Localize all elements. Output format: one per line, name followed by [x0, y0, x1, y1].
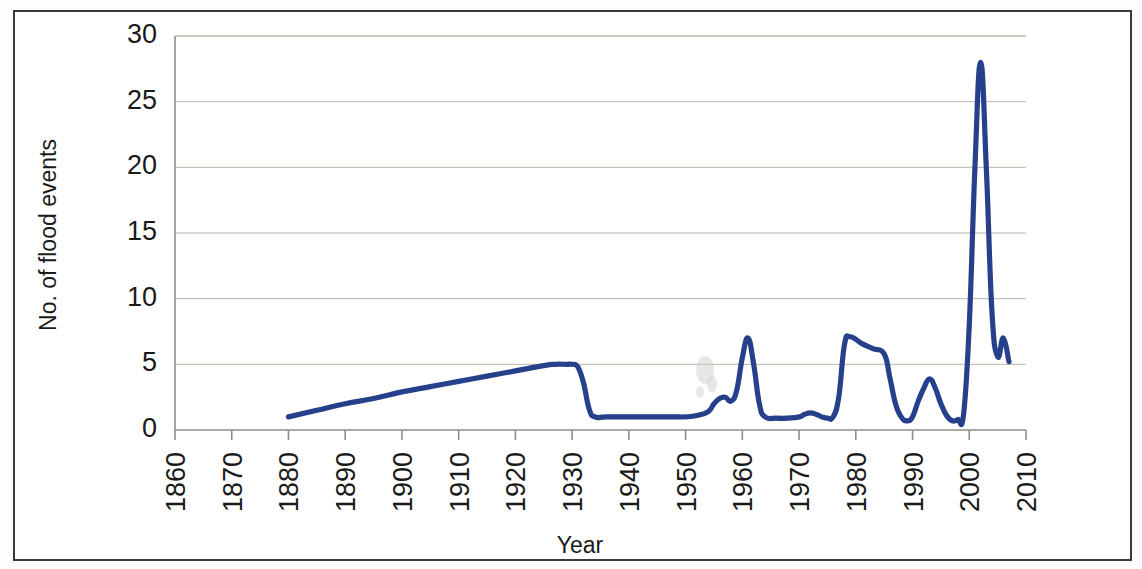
gridlines-group: [175, 36, 1026, 364]
x-tick-label: 1890: [331, 452, 361, 512]
y-tick-label: 30: [127, 19, 157, 49]
x-tick-labels-group: 1860187018801890190019101920193019401950…: [161, 452, 1042, 512]
y-tick-labels-group: 051015202530: [127, 19, 157, 443]
x-tick-label: 1900: [388, 452, 418, 512]
x-tick-label: 1920: [501, 452, 531, 512]
x-tick-label: 1860: [161, 452, 191, 512]
x-tickmarks-group: [175, 430, 1026, 440]
x-tick-label: 1880: [274, 452, 304, 512]
x-tick-label: 1930: [558, 452, 588, 512]
x-axis-title: Year: [557, 532, 604, 558]
x-tick-label: 1980: [842, 452, 872, 512]
flood-events-line: [288, 62, 1009, 424]
line-chart: 051015202530 186018701880189019001910192…: [0, 0, 1142, 569]
x-tick-label: 1910: [445, 452, 475, 512]
y-tick-label: 0: [142, 413, 157, 443]
figure-page: 051015202530 186018701880189019001910192…: [0, 0, 1142, 569]
y-tick-label: 20: [127, 150, 157, 180]
scan-smudge-artifact: [696, 356, 717, 398]
y-tick-label: 10: [127, 282, 157, 312]
x-tick-label: 1970: [785, 452, 815, 512]
y-axis-title: No. of flood events: [35, 139, 61, 331]
x-tick-label: 1940: [615, 452, 645, 512]
x-tick-label: 1870: [218, 452, 248, 512]
x-tick-label: 1960: [728, 452, 758, 512]
y-tick-label: 5: [142, 347, 157, 377]
x-tick-label: 2000: [955, 452, 985, 512]
y-tick-label: 25: [127, 85, 157, 115]
x-tick-label: 2010: [1012, 452, 1042, 512]
y-tick-label: 15: [127, 216, 157, 246]
x-tick-label: 1990: [899, 452, 929, 512]
x-tick-label: 1950: [672, 452, 702, 512]
